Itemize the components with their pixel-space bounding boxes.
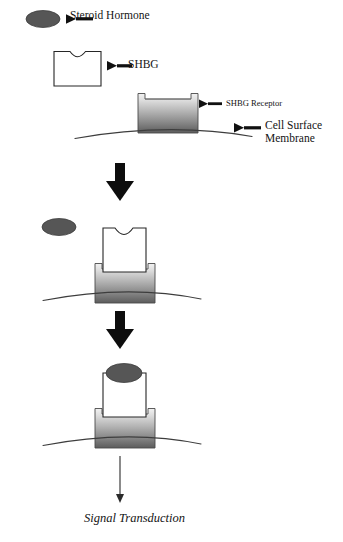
shbg-icon-2 xyxy=(103,228,146,272)
label-cell-surface-membrane: Cell Surface Membrane xyxy=(265,119,322,145)
stage-arrow-2-icon xyxy=(106,311,134,349)
stage-2-shbg-docked xyxy=(42,219,201,304)
label-shbg: SHBG xyxy=(128,58,159,71)
steroid-hormone-icon-2 xyxy=(42,219,76,236)
shbg-icon xyxy=(54,52,101,87)
stage-1-legend xyxy=(26,11,261,139)
label-signal-transduction: Signal Transduction xyxy=(84,511,185,525)
label-shbg-receptor: SHBG Receptor xyxy=(226,99,282,109)
signal-transduction-arrow-icon xyxy=(116,456,124,503)
label-steroid-hormone: Steroid Hormone xyxy=(70,9,150,22)
stage-arrow-1-icon xyxy=(106,163,134,201)
shbg-receptor-icon-1 xyxy=(138,94,198,134)
steroid-hormone-icon-3 xyxy=(106,364,142,383)
pathway-illustration xyxy=(0,0,343,542)
steroid-hormone-icon xyxy=(26,11,60,28)
pointer-arrow-membrane-icon xyxy=(234,123,261,133)
stage-3-hormone-bound xyxy=(43,364,201,449)
diagram-canvas: Steroid Hormone SHBG SHBG Receptor Cell … xyxy=(0,0,343,542)
pointer-arrow-receptor-icon xyxy=(199,99,222,108)
